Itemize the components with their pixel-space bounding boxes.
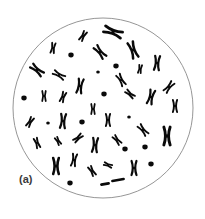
chromosome	[103, 26, 122, 38]
chromosome-dot	[127, 115, 131, 118]
chromosome	[53, 70, 65, 80]
chromosome	[88, 166, 96, 176]
chromosome	[164, 81, 175, 93]
chromosome	[42, 91, 46, 101]
chromosome-dot	[122, 147, 127, 152]
chromosome	[104, 162, 112, 167]
chromosome	[92, 138, 98, 152]
field-of-view-circle	[13, 18, 193, 198]
chromosome	[128, 42, 139, 59]
chromosome	[100, 182, 110, 186]
chromosomes-group	[21, 26, 177, 186]
chromosome	[91, 104, 95, 114]
chromosome	[173, 100, 177, 112]
chromosome	[34, 138, 41, 149]
chromosome-dot	[46, 121, 50, 124]
chromosome	[76, 79, 83, 94]
chromosome	[112, 135, 121, 145]
chromosome	[138, 65, 142, 73]
chromosome-dot	[21, 96, 26, 101]
chromosome-dot	[113, 64, 118, 69]
chromosome	[116, 74, 126, 86]
chromosome-dot	[96, 70, 100, 73]
chromosome	[154, 56, 160, 70]
chromosome	[50, 43, 55, 53]
chromosome	[60, 92, 67, 103]
chromosome-dot	[68, 53, 73, 58]
chromosome	[60, 114, 66, 128]
chromosome-dot	[148, 162, 153, 167]
chromosome	[26, 117, 34, 127]
chromosome	[132, 161, 137, 175]
chromosome	[111, 178, 125, 183]
chromosome-dot	[67, 181, 72, 186]
chromosome-dot	[142, 145, 147, 150]
chromosome	[125, 89, 135, 98]
chromosome	[164, 127, 170, 145]
chromosome	[73, 133, 83, 142]
chromosome	[138, 124, 149, 136]
chromosome-spread-figure	[0, 0, 205, 219]
chromosome-dot	[101, 92, 106, 97]
chromosome	[55, 137, 61, 145]
panel-label: (a)	[19, 173, 32, 185]
chromosome	[94, 45, 107, 59]
chromosome	[71, 154, 77, 167]
chromosome	[106, 114, 110, 126]
chromosome	[53, 158, 59, 174]
chromosome	[79, 31, 87, 41]
chromosome	[147, 90, 155, 105]
chromosome	[30, 64, 44, 77]
chromosome-dot	[79, 120, 84, 125]
